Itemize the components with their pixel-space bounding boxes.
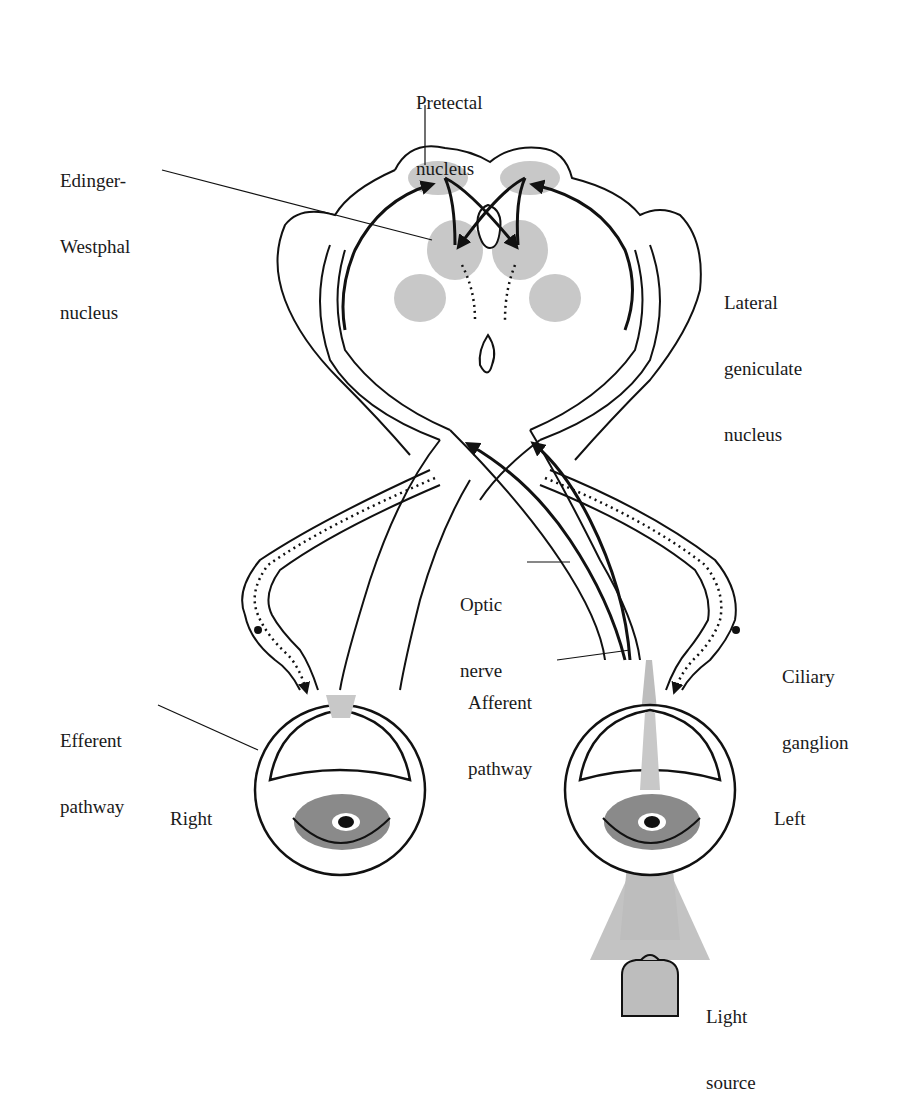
label-lateral-geniculate: Lateral geniculate nucleus: [724, 248, 802, 468]
label-line: Efferent: [60, 730, 124, 752]
label-edinger-westphal: Edinger- Westphal nucleus: [60, 126, 130, 346]
label-line: Lateral: [724, 292, 802, 314]
label-line: Pretectal: [416, 92, 482, 114]
label-pretectal-nucleus: Pretectal nucleus: [416, 48, 482, 202]
left-eye: [565, 705, 735, 875]
label-line: geniculate: [724, 358, 802, 380]
label-left-eye: Left: [774, 764, 806, 852]
midbrain-outline: [278, 146, 701, 460]
label-light-source: Light source: [706, 962, 756, 1093]
label-afferent-pathway: Afferent pathway: [468, 648, 532, 802]
label-ciliary-ganglion: Ciliary ganglion: [782, 622, 849, 776]
lgn-right: [529, 274, 581, 322]
label-line: ganglion: [782, 732, 849, 754]
label-line: Right: [170, 808, 212, 830]
ciliary-ganglion-right: [254, 626, 262, 634]
label-line: Left: [774, 808, 806, 830]
label-line: nucleus: [416, 158, 482, 180]
label-line: pathway: [468, 758, 532, 780]
aqueduct: [477, 205, 500, 248]
label-line: Light: [706, 1006, 756, 1028]
label-line: nucleus: [60, 302, 130, 324]
right-eye: [255, 695, 425, 875]
ciliary-ganglion-left: [732, 626, 740, 634]
label-line: Optic: [460, 594, 502, 616]
label-line: Westphal: [60, 236, 130, 258]
light-source-icon: [622, 955, 678, 1016]
label-line: Afferent: [468, 692, 532, 714]
midline-structure: [480, 335, 495, 373]
label-efferent-pathway: Efferent pathway: [60, 686, 124, 840]
lgn-left: [394, 274, 446, 322]
label-line: Ciliary: [782, 666, 849, 688]
label-line: source: [706, 1072, 756, 1093]
label-line: pathway: [60, 796, 124, 818]
label-right-eye: Right: [170, 764, 212, 852]
label-line: nucleus: [724, 424, 802, 446]
label-line: Edinger-: [60, 170, 130, 192]
